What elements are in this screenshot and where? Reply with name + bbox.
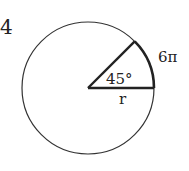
sector-arc xyxy=(135,41,154,88)
problem-number: 4 xyxy=(0,15,13,39)
radius-label: r xyxy=(119,90,127,108)
circle-sector-diagram: 4 45° 6π r xyxy=(0,0,189,171)
angle-label: 45° xyxy=(106,70,133,88)
arc-length-label: 6π xyxy=(158,48,178,66)
